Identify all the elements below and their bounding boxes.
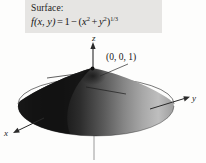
surface-equation: f(x, y)=1−(x2+y2)1/3 xyxy=(31,15,162,28)
equation-outer-exponent: 1/3 xyxy=(110,16,118,22)
x-axis-arrowhead xyxy=(13,128,20,133)
equation-minus: − xyxy=(70,16,79,27)
z-axis-arrowhead xyxy=(90,42,95,49)
y-axis-arrowhead xyxy=(183,96,190,101)
z-axis-label: z xyxy=(92,33,96,43)
x-axis-label: x xyxy=(4,128,8,138)
caption-title: Surface: xyxy=(31,3,162,14)
equation-arguments: (x, y) xyxy=(34,16,56,27)
apex-point-label: (0, 0, 1) xyxy=(106,52,136,62)
equation-constant: 1 xyxy=(64,16,69,27)
equation-plus: + xyxy=(90,16,99,27)
surface-plot-figure: Surface: f(x, y)=1−(x2+y2)1/3 z y x (0, … xyxy=(0,0,206,163)
y-axis-label: y xyxy=(192,93,196,103)
caption-box: Surface: f(x, y)=1−(x2+y2)1/3 xyxy=(25,0,162,33)
apex-point-marker xyxy=(91,67,95,71)
